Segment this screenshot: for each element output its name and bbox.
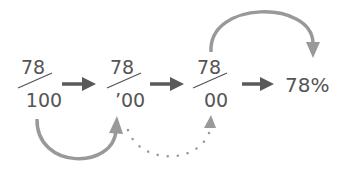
fraction-step-3: 78 00 [193,56,228,111]
denominator: ’00 [115,89,145,111]
fraction-to-percent-diagram: 78 100 78 ’00 78 00 78% [0,0,344,173]
arrow-right-icon [242,77,274,91]
fraction-step-2: 78 ’00 [107,56,145,111]
arrow-right-icon [62,77,96,91]
numerator: 78 [21,56,45,78]
numerator: 78 [197,56,221,78]
fraction-step-1: 78 100 [18,56,62,111]
denominator: 100 [26,89,62,111]
numerator: 78 [110,56,134,78]
result-percent: 78% [285,73,329,97]
dotted-curved-arrow-icon [128,115,216,156]
curved-up-arrow-icon [37,116,123,159]
denominator: 00 [204,89,228,111]
curved-down-arrow-icon [211,12,320,58]
arrow-right-icon [150,77,184,91]
